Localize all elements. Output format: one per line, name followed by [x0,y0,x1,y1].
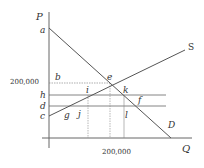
label-i: i [86,85,89,95]
label-e: e [107,72,112,82]
label-l: l [125,110,128,120]
label-g: g [64,110,70,120]
label-b: b [55,72,61,82]
demand-label: D [167,120,175,130]
label-d: d [40,101,46,111]
label-j: j [76,109,81,119]
price-axis-label: P [35,11,43,22]
quantity-axis-label: Q [182,143,190,154]
supply-label: S [188,42,194,52]
label-h: h [40,90,46,100]
label-k: k [123,85,128,95]
label-f: f [137,95,143,105]
label-c: c [40,111,45,121]
supply-demand-diagram: P Q 200,000 200,000 S D a b e h i k f d … [0,0,204,168]
label-a: a [40,25,45,35]
price-tick-label: 200,000 [10,78,39,86]
quantity-tick-label: 200,000 [102,148,131,156]
